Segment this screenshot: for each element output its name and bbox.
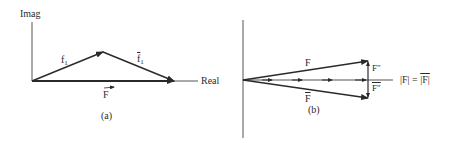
F-resultant-label: F	[103, 90, 109, 100]
equality-lhs: |F|	[400, 74, 410, 85]
f1-label: f1	[61, 55, 68, 67]
real-axis-label: Real	[201, 76, 219, 86]
F-conjugate-lower-label: F	[305, 94, 311, 104]
F-double-prime-label: F″	[372, 64, 381, 73]
equality-sign: =	[412, 74, 418, 85]
panel-a	[32, 22, 198, 88]
caption-a: (a)	[101, 111, 112, 121]
f1-conjugate-subscript: 1	[140, 58, 144, 66]
magnitude-equality-label: |F| = |F|	[400, 75, 430, 85]
f1-conjugate-label: f1	[137, 54, 144, 66]
f1-subscript: 1	[64, 59, 68, 67]
F-upper-label: F	[305, 58, 311, 68]
imag-axis-label: Imag	[20, 9, 41, 19]
panel-b	[243, 20, 393, 138]
diagram-canvas	[0, 0, 455, 143]
F-arrow-over-icon	[104, 87, 114, 88]
F-conjugate-double-prime-label: F″	[372, 84, 381, 93]
equality-rhs: |F|	[420, 74, 430, 85]
caption-b: (b)	[308, 105, 320, 115]
